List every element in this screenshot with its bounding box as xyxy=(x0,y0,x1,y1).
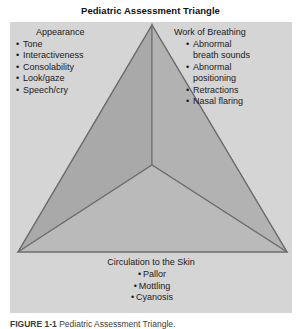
list-item-label: Cyanosis xyxy=(136,292,173,302)
appearance-heading: Appearance xyxy=(14,27,138,38)
list-item-label: Interactiveness xyxy=(23,50,84,60)
list-item: •Interactiveness xyxy=(16,50,138,61)
list-item: •Abnormalbreath sounds xyxy=(186,39,290,62)
bullet-icon: • xyxy=(16,85,23,96)
list-item-label: Retractions xyxy=(193,85,239,95)
list-item: •Speech/cry xyxy=(16,85,138,96)
circulation-list: •Pallor •Mottling •Cyanosis xyxy=(10,269,292,303)
list-item-label: Nasal flaring xyxy=(193,96,243,106)
list-item: •Cyanosis xyxy=(10,292,292,303)
list-item: •Look/gaze xyxy=(16,73,138,84)
figure-caption: FIGURE 1-1 Pediatric Assessment Triangle… xyxy=(10,319,301,329)
bullet-icon: • xyxy=(16,39,23,50)
list-item: •Nasal flaring xyxy=(186,96,290,107)
bullet-icon: • xyxy=(16,62,23,73)
bullet-icon: • xyxy=(16,73,23,84)
list-item-label: Consolability xyxy=(23,62,74,72)
list-item-label-continued: breath sounds xyxy=(186,50,290,61)
figure-caption-text: Pediatric Assessment Triangle. xyxy=(59,319,175,329)
list-item-label: Mottling xyxy=(139,281,171,291)
figure-container: Pediatric Assessment Triangle Appearance… xyxy=(0,0,301,329)
list-item-label: Speech/cry xyxy=(23,85,68,95)
list-item: •Pallor xyxy=(10,269,292,280)
bullet-icon: • xyxy=(186,96,193,107)
bullet-icon: • xyxy=(16,50,23,61)
bullet-icon: • xyxy=(186,39,193,50)
bullet-icon: • xyxy=(186,62,193,73)
list-item: •Retractions xyxy=(186,85,290,96)
list-item-label-continued: positioning xyxy=(186,73,290,84)
bullet-icon: • xyxy=(132,281,139,292)
label-group-work-of-breathing: Work of Breathing •Abnormalbreath sounds… xyxy=(168,27,290,107)
list-item: •Consolability xyxy=(16,62,138,73)
list-item-label: Abnormal xyxy=(193,39,232,49)
breathing-list: •Abnormalbreath sounds •Abnormalposition… xyxy=(168,39,290,107)
list-item-label: Abnormal xyxy=(193,62,232,72)
list-item: •Mottling xyxy=(10,281,292,292)
list-item: •Tone xyxy=(16,39,138,50)
figure-caption-label: FIGURE 1-1 xyxy=(10,319,57,329)
breathing-heading: Work of Breathing xyxy=(168,27,290,38)
list-item-label: Tone xyxy=(23,39,43,49)
bullet-icon: • xyxy=(186,85,193,96)
list-item: •Abnormalpositioning xyxy=(186,62,290,85)
bullet-icon: • xyxy=(129,292,136,303)
page-title: Pediatric Assessment Triangle xyxy=(0,5,301,17)
label-group-appearance: Appearance •Tone •Interactiveness •Conso… xyxy=(14,27,138,96)
circulation-heading: Circulation to the Skin xyxy=(10,257,292,268)
appearance-list: •Tone •Interactiveness •Consolability •L… xyxy=(14,39,138,96)
list-item-label: Look/gaze xyxy=(23,73,65,83)
bullet-icon: • xyxy=(136,269,143,280)
list-item-label: Pallor xyxy=(143,269,166,279)
diagram-panel: Appearance •Tone •Interactiveness •Conso… xyxy=(10,22,292,313)
label-group-circulation: Circulation to the Skin •Pallor •Mottlin… xyxy=(10,257,292,304)
